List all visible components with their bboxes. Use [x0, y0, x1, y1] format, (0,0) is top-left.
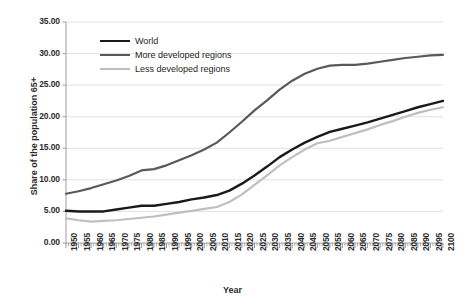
chart-legend: WorldMore developed regionsLess develope… — [100, 34, 232, 76]
legend-swatch — [100, 68, 130, 70]
legend-item: Less developed regions — [100, 62, 232, 76]
x-axis-tick-label: 2055 — [333, 233, 343, 251]
x-axis-tick-label: 2045 — [308, 233, 318, 251]
y-axis-tick-label: 0.00 — [10, 237, 60, 247]
x-axis-tick-label: 2040 — [296, 233, 306, 251]
y-axis-tick-label: 10.00 — [10, 174, 60, 184]
x-axis-title: Year — [0, 285, 465, 295]
x-axis-tick-label: 1990 — [170, 233, 180, 251]
x-axis-tick-label: 2070 — [371, 233, 381, 251]
y-axis-tick-label: 30.00 — [10, 48, 60, 58]
x-axis-tick-label: 1995 — [183, 233, 193, 251]
x-axis-tick-label: 1965 — [107, 233, 117, 251]
y-axis-tick-label: 20.00 — [10, 111, 60, 121]
x-axis-tick-label: 2035 — [283, 233, 293, 251]
y-axis-tick-label: 5.00 — [10, 205, 60, 215]
x-axis-tick-label: 1970 — [120, 233, 130, 251]
legend-item: More developed regions — [100, 48, 232, 62]
x-axis-tick-label: 2080 — [396, 233, 406, 251]
x-axis-tick-label: 1960 — [95, 233, 105, 251]
x-axis-tick-label: 2010 — [220, 233, 230, 251]
y-axis-tick-label: 15.00 — [10, 142, 60, 152]
x-axis-tick-label: 2025 — [258, 233, 268, 251]
x-axis-tick-label: 2060 — [346, 233, 356, 251]
y-axis-tick-label: 25.00 — [10, 79, 60, 89]
x-axis-tick-label: 2050 — [321, 233, 331, 251]
x-axis-tick-label: 2095 — [434, 233, 444, 251]
y-axis-tick-label: 35.00 — [10, 16, 60, 26]
x-axis-tick-label: 1975 — [132, 233, 142, 251]
x-axis-tick-label: 1985 — [157, 233, 167, 251]
legend-label: More developed regions — [135, 50, 232, 60]
plot-area — [0, 0, 465, 306]
x-axis-tick-label: 2030 — [270, 233, 280, 251]
x-axis-tick-label: 2075 — [384, 233, 394, 251]
series-line-less-developed-regions — [66, 107, 443, 221]
x-axis-tick-label: 2005 — [208, 233, 218, 251]
legend-item: World — [100, 34, 232, 48]
x-axis-tick-label: 2085 — [409, 233, 419, 251]
legend-swatch — [100, 40, 130, 42]
x-axis-tick-label: 1980 — [145, 233, 155, 251]
line-chart: Share of the population 65+ Year WorldMo… — [0, 0, 465, 306]
x-axis-tick-label: 2090 — [421, 233, 431, 251]
legend-label: World — [135, 36, 158, 46]
series-line-world — [66, 101, 443, 212]
x-axis-tick-label: 2000 — [195, 233, 205, 251]
legend-swatch — [100, 54, 130, 56]
x-axis-tick-label: 2020 — [245, 233, 255, 251]
x-axis-tick-label: 1955 — [82, 233, 92, 251]
legend-label: Less developed regions — [135, 64, 230, 74]
x-axis-tick-label: 2065 — [358, 233, 368, 251]
x-axis-tick-label: 2100 — [446, 233, 456, 251]
x-axis-tick-label: 2015 — [233, 233, 243, 251]
x-axis-tick-label: 1950 — [69, 233, 79, 251]
